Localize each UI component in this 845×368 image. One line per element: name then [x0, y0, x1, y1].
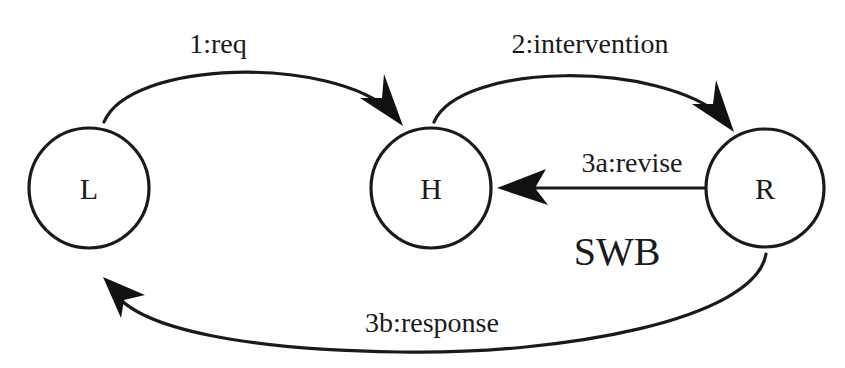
node-R: R	[706, 129, 824, 247]
node-H: H	[371, 128, 491, 248]
edge-label-revise: 3a:revise	[581, 147, 682, 178]
edge-label-intervention: 2:intervention	[511, 28, 668, 59]
swb-annotation: SWB	[574, 229, 661, 274]
edge-response: 3b:response	[103, 254, 766, 352]
diagram-canvas: 1:req 2:intervention 3a:revise SWB 3b:re…	[0, 0, 845, 368]
edge-req: 1:req	[104, 28, 403, 126]
edge-label-req: 1:req	[189, 28, 247, 59]
edge-revise: 3a:revise	[497, 147, 706, 205]
node-label-L: L	[80, 172, 98, 205]
edge-label-response: 3b:response	[365, 307, 499, 338]
edge-intervention: 2:intervention	[434, 28, 734, 132]
node-label-H: H	[420, 172, 442, 205]
node-label-R: R	[755, 172, 775, 205]
arrowhead-icon	[360, 74, 403, 126]
arrowhead-icon	[692, 80, 734, 132]
node-L: L	[29, 128, 149, 248]
